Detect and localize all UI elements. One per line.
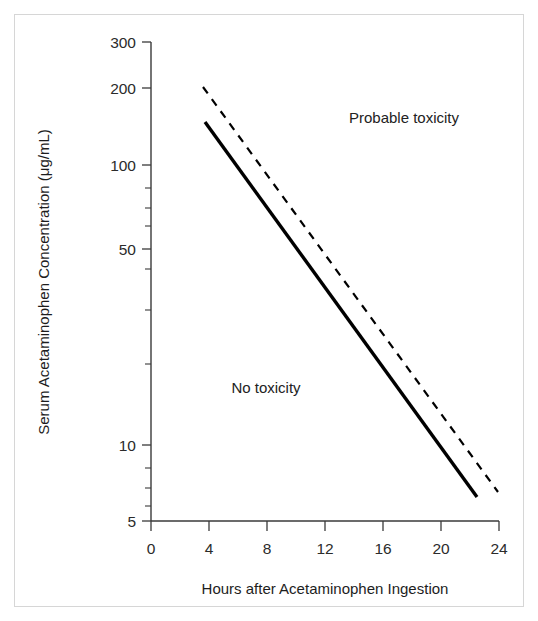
x-axis-ticks (151, 521, 499, 531)
x-tick-label-4: 4 (205, 540, 214, 557)
x-tick-label-20: 20 (432, 540, 450, 557)
y-tick-label-300: 300 (110, 34, 136, 51)
y-tick-label-50: 50 (119, 241, 137, 258)
x-tick-label-24: 24 (490, 540, 508, 557)
x-tick-label-8: 8 (263, 540, 272, 557)
y-tick-label-100: 100 (110, 157, 136, 174)
annotation-no-toxicity: No toxicity (231, 379, 301, 396)
annotation-probable-toxicity: Probable toxicity (349, 109, 460, 126)
series-probable-toxicity-boundary (203, 87, 498, 492)
series-treatment-line (205, 122, 477, 497)
y-axis-major-ticks (142, 42, 151, 521)
y-axis-title: Serum Acetaminophen Concentration (μg/mL… (35, 129, 52, 434)
figure-root: 300 200 100 50 10 5 0 4 8 12 16 20 24 Pr… (0, 0, 538, 621)
y-tick-label-5: 5 (127, 513, 136, 530)
x-tick-label-16: 16 (374, 540, 391, 557)
y-tick-label-200: 200 (110, 80, 136, 97)
y-axis-minor-ticks (145, 188, 151, 506)
x-tick-label-0: 0 (147, 540, 156, 557)
x-tick-label-12: 12 (316, 540, 333, 557)
x-axis-title: Hours after Acetaminophen Ingestion (202, 580, 449, 597)
nomogram-chart: 300 200 100 50 10 5 0 4 8 12 16 20 24 Pr… (0, 0, 538, 621)
y-tick-label-10: 10 (119, 437, 137, 454)
